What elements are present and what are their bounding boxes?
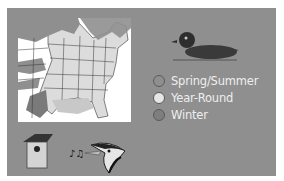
wood-duck-icon xyxy=(167,26,242,64)
bird-head-icon xyxy=(85,139,129,175)
legend-label: Year-Round xyxy=(171,91,233,105)
range-map xyxy=(18,18,131,122)
svg-text:♪♫: ♪♫ xyxy=(69,148,84,159)
legend: Spring/Summer Year-Round Winter xyxy=(153,73,283,124)
legend-item-spring-summer: Spring/Summer xyxy=(153,73,283,89)
nest-box-icon xyxy=(21,132,55,172)
legend-label: Winter xyxy=(171,108,208,122)
legend-item-winter: Winter xyxy=(153,107,283,123)
year-round-swatch-icon xyxy=(153,92,165,104)
winter-swatch-icon xyxy=(153,109,165,121)
legend-item-year-round: Year-Round xyxy=(153,90,283,106)
legend-label: Spring/Summer xyxy=(171,74,258,88)
range-map-panel: Spring/Summer Year-Round Winter ♪♫ xyxy=(7,8,276,176)
eastern-us-map-icon xyxy=(18,18,131,122)
spring-summer-swatch-icon xyxy=(153,75,165,87)
